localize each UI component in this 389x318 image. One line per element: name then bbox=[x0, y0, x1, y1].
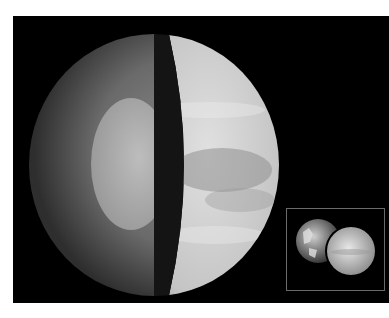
size-comparison-inset bbox=[287, 209, 385, 291]
venus-illustration bbox=[13, 16, 389, 303]
image-panel bbox=[13, 16, 389, 303]
